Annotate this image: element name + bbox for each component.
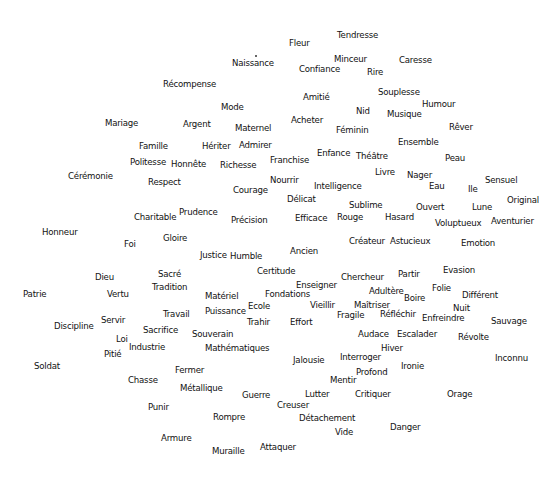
word-label: Justice <box>200 251 227 260</box>
word-label: Nuit <box>453 304 470 313</box>
word-label: Attaquer <box>260 443 296 452</box>
word-label: Ecole <box>248 302 270 311</box>
word-label: Tradition <box>152 283 187 292</box>
word-label: Nid <box>356 107 370 116</box>
word-label: Escalader <box>397 330 437 339</box>
word-label: Vertu <box>107 290 129 299</box>
word-label: Original <box>507 196 539 205</box>
word-label: Humble <box>230 252 262 261</box>
word-label: Mentir <box>330 376 356 385</box>
word-label: Délicat <box>287 195 316 204</box>
word-label: Critiquer <box>355 390 391 399</box>
word-label: Nourrir <box>270 176 299 185</box>
word-label: Souplesse <box>378 88 420 97</box>
word-label: Théâtre <box>356 152 388 161</box>
word-label: Honnête <box>171 160 206 169</box>
word-label: Fragile <box>337 311 364 320</box>
word-label: Jalousie <box>293 356 324 365</box>
word-label: Tendresse <box>337 31 378 40</box>
word-label: Maternel <box>235 124 271 133</box>
word-label: Profond <box>356 368 387 377</box>
word-label: Astucieux <box>390 237 430 246</box>
word-label: Fleur <box>289 39 310 48</box>
word-label: Sauvage <box>491 317 527 326</box>
word-label: Adultère <box>369 287 404 296</box>
word-label: Chercheur <box>341 273 384 282</box>
word-label: Inconnu <box>495 354 528 363</box>
word-label: Livre <box>375 168 395 177</box>
word-label: Charitable <box>134 213 176 222</box>
word-label: Mathématiques <box>205 344 269 353</box>
word-label: Trahir <box>247 318 270 327</box>
word-label: Eau <box>429 182 445 191</box>
word-label: Sublime <box>349 201 382 210</box>
word-label: Récompense <box>163 80 216 89</box>
word-label: Travail <box>163 310 190 319</box>
word-label: Hiver <box>381 344 403 353</box>
word-label: Prudence <box>179 208 218 217</box>
word-label: Souverain <box>192 330 233 339</box>
marker-dot <box>255 55 257 57</box>
word-label: Rouge <box>337 213 363 222</box>
word-label: Féminin <box>336 126 368 135</box>
word-label: Muraille <box>212 447 245 456</box>
word-label: Mode <box>221 103 244 112</box>
word-label: Boire <box>404 294 425 303</box>
word-label: Détachement <box>299 414 355 423</box>
word-label: Creuser <box>277 401 309 410</box>
word-label: Argent <box>183 120 211 129</box>
word-label: Pitié <box>104 350 121 359</box>
word-label: Evasion <box>443 266 475 275</box>
word-label: Aventurier <box>491 217 534 226</box>
word-label: Vide <box>335 428 353 437</box>
word-label: Honneur <box>42 228 77 237</box>
word-label: Efficace <box>295 214 327 223</box>
word-label: Courage <box>233 186 268 195</box>
word-label: Hasard <box>385 213 414 222</box>
word-label: Richesse <box>220 161 256 170</box>
word-label: Foi <box>124 240 136 249</box>
word-label: Peau <box>445 154 465 163</box>
word-label: Gloire <box>163 234 187 243</box>
word-label: Chasse <box>128 376 158 385</box>
word-label: Discipline <box>54 322 94 331</box>
word-label: Servir <box>101 316 125 325</box>
word-label: Armure <box>161 434 192 443</box>
word-label: Lutter <box>305 390 329 399</box>
word-label: Créateur <box>349 237 385 246</box>
word-label: Puissance <box>205 307 246 316</box>
word-label: Intelligence <box>314 182 362 191</box>
word-label: Fondations <box>265 290 310 299</box>
word-label: Ancien <box>290 247 318 256</box>
word-label: Acheter <box>291 116 323 125</box>
word-label: Précision <box>231 216 268 225</box>
word-label: Lune <box>472 203 492 212</box>
word-label: Industrie <box>129 343 165 352</box>
word-label: Nager <box>407 171 432 180</box>
word-label: Voluptueux <box>435 219 481 228</box>
word-label: Famille <box>139 142 168 151</box>
word-label: Amitié <box>303 93 329 102</box>
word-label: Ironie <box>401 362 424 371</box>
word-label: Certitude <box>257 267 295 276</box>
word-label: Révolte <box>458 333 489 342</box>
word-label: Matériel <box>205 292 238 301</box>
word-label: Admirer <box>239 141 272 150</box>
word-label: Respect <box>148 178 181 187</box>
word-label: Sacrifice <box>143 326 178 335</box>
word-label: Fermer <box>175 366 204 375</box>
word-label: Cérémonie <box>68 172 113 181</box>
word-label: Sensuel <box>485 176 517 185</box>
word-label: Sacré <box>158 270 181 279</box>
word-label: Franchise <box>270 156 309 165</box>
word-label: Audace <box>358 330 389 339</box>
word-label: Dieu <box>95 273 114 282</box>
word-label: Loi <box>116 335 128 344</box>
word-label: Interroger <box>340 353 381 362</box>
word-label: Rire <box>367 68 383 77</box>
word-label: Enfreindre <box>422 314 464 323</box>
word-label: Humour <box>422 100 455 109</box>
word-label: Mariage <box>105 119 138 128</box>
word-label: Orage <box>447 390 472 399</box>
word-label: Politesse <box>130 158 166 167</box>
